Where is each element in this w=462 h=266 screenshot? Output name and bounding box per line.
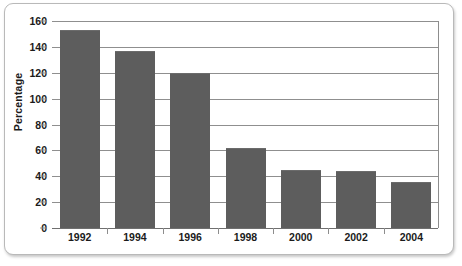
x-axis-tick-label: 1992 (68, 232, 91, 243)
y-axis-tick-mark (40, 72, 47, 73)
x-axis-tick-label: 2000 (289, 232, 312, 243)
bar (281, 170, 321, 228)
bar (336, 171, 376, 228)
x-axis-labels: 1992199419961998200020022004 (52, 232, 439, 250)
y-axis-tick-mark (40, 21, 47, 22)
bar (115, 51, 155, 228)
bar (226, 148, 266, 228)
y-axis-tick-mark (40, 228, 47, 229)
bar (170, 73, 210, 228)
x-axis-tick-label: 1994 (123, 232, 146, 243)
x-axis-tick-label: 1998 (234, 232, 257, 243)
y-axis-tick-mark (40, 124, 47, 125)
bar-series (52, 21, 438, 228)
gridline (52, 228, 438, 229)
y-axis-tick-mark (40, 202, 47, 203)
plot-area (52, 21, 439, 228)
x-axis-tick-label: 1996 (179, 232, 202, 243)
bar-chart-figure: Percentage 020406080100120140160 1992199… (0, 0, 462, 266)
y-axis-tick-mark (40, 98, 47, 99)
y-axis-tick-mark (40, 176, 47, 177)
y-axis: Percentage 020406080100120140160 (0, 0, 47, 266)
y-axis-tick-mark (40, 150, 47, 151)
y-axis-tick-mark (40, 46, 47, 47)
x-axis-tick-label: 2004 (400, 232, 423, 243)
x-axis-tick-label: 2002 (344, 232, 367, 243)
bar (60, 30, 100, 228)
bar (391, 182, 431, 228)
